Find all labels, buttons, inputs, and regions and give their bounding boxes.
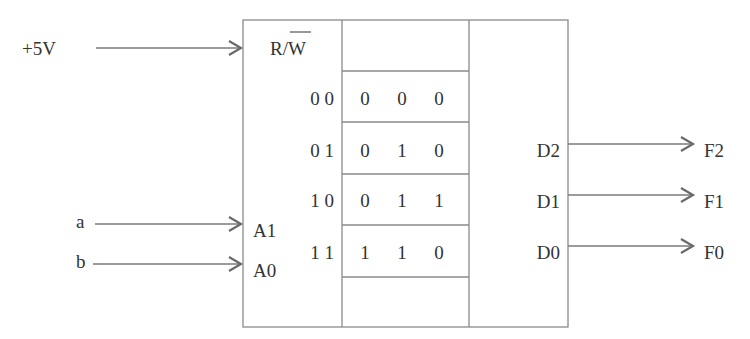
output-f2-label: F2 [704,140,724,161]
input-a-label: a [76,211,85,232]
rom-diagram: +5V R/W 0 0 0 1 1 0 1 1 A1 A0 a b 0 0 0 … [0,0,750,339]
cell: 0 [434,140,444,161]
power-input-arrow [96,41,241,55]
output-f0-arrow [568,239,693,253]
cell: 1 [397,140,407,161]
cell: 1 [434,190,444,211]
rw-w-overbar: W [288,38,306,59]
input-a-arrow [95,217,241,231]
pin-d0-label: D0 [537,242,560,263]
output-f1-label: F1 [704,191,724,212]
output-f1-arrow [568,188,693,202]
cell: 0 [360,88,370,109]
power-label: +5V [22,38,56,59]
cell: 0 [360,190,370,211]
memory-row-3: 1 1 0 [360,242,444,263]
address-label: 1 0 [310,190,334,211]
output-f2-arrow [568,137,693,151]
rw-label: R/W [270,38,306,59]
cell: 0 [434,242,444,263]
input-b-arrow [93,257,241,271]
cell: 0 [434,88,444,109]
output-f0-label: F0 [704,242,724,263]
cell: 0 [397,88,407,109]
pin-a1-label: A1 [253,220,276,241]
memory-row-0: 0 0 0 [360,88,444,109]
address-label: 1 1 [310,242,334,263]
cell: 1 [397,190,407,211]
cell: 0 [360,140,370,161]
pin-d1-label: D1 [537,191,560,212]
memory-row-1: 0 1 0 [360,140,444,161]
memory-row-2: 0 1 1 [360,190,444,211]
cell: 1 [397,242,407,263]
input-b-label: b [76,251,86,272]
pin-a0-label: A0 [253,260,276,281]
address-label: 0 0 [310,88,334,109]
address-label: 0 1 [310,140,334,161]
pin-d2-label: D2 [537,140,560,161]
cell: 1 [360,242,370,263]
